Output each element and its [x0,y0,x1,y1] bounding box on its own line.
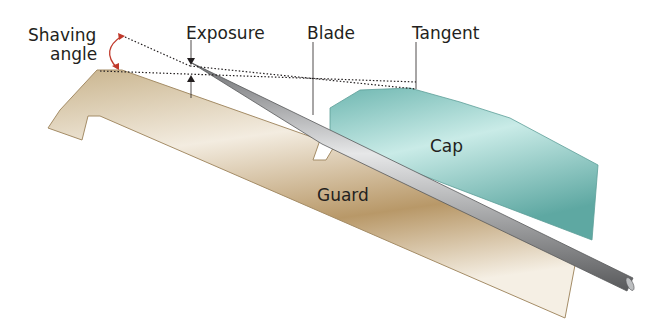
shaving-angle-arc-icon [110,36,122,68]
label-blade: Blade [307,24,355,42]
exposure-arrow-up-icon [187,75,195,82]
label-exposure: Exposure [186,24,265,42]
label-guard: Guard [317,186,369,204]
label-shaving-angle-2: angle [50,45,97,63]
label-tangent: Tangent [412,24,479,42]
label-shaving-angle-1: Shaving [28,26,96,44]
angle-line-upper [125,37,190,66]
label-cap: Cap [430,137,463,155]
razor-diagram [0,0,667,331]
